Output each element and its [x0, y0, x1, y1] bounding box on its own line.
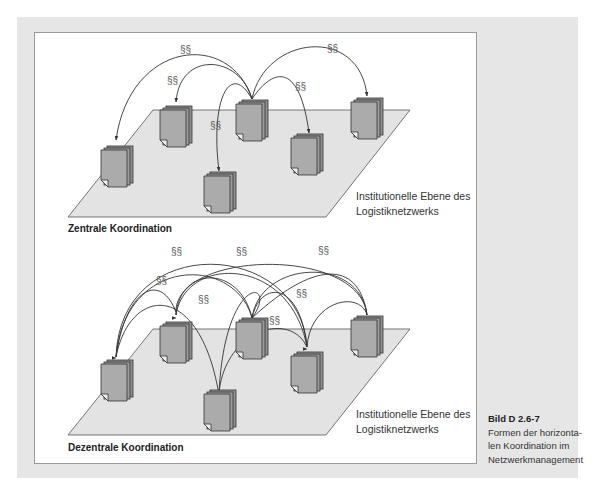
document-icon	[351, 98, 383, 139]
panel-title: Zentrale Koordination	[68, 223, 172, 234]
arc-label: §§	[295, 81, 306, 92]
document-icon	[204, 390, 236, 431]
caption-id: Bild D 2.6-7	[488, 412, 588, 426]
arc-label: §§	[327, 43, 338, 54]
plane-label: Logistiknetzwerks	[356, 205, 439, 217]
document-icon	[101, 146, 133, 187]
figure-caption: Bild D 2.6-7 Formen der horizonta- len K…	[488, 412, 588, 466]
arc-label: §§	[318, 245, 329, 256]
caption-line: Netzwerkmanagement	[488, 453, 588, 467]
arc-label: §§	[180, 44, 191, 55]
arc-label: §§	[269, 315, 280, 326]
document-icon	[291, 352, 323, 393]
plane-label: Logistiknetzwerks	[356, 423, 439, 435]
arc-label: §§	[296, 288, 307, 299]
arc-label: §§	[210, 120, 221, 131]
caption-line: len Koordination im	[488, 439, 588, 453]
document-icon	[160, 322, 192, 363]
arc-label: §§	[236, 246, 247, 257]
document-icon	[236, 318, 268, 359]
document-icon	[291, 134, 323, 175]
arc-label: §§	[198, 294, 209, 305]
document-icon	[160, 106, 192, 147]
document-icon	[101, 360, 133, 401]
plane-label: Institutionelle Ebene des	[356, 408, 470, 420]
panel-zentral: §§ §§ §§ §§ §§ Institutionelle Ebene des…	[68, 43, 470, 234]
arc-label: §§	[156, 275, 167, 286]
panel-title: Dezentrale Koordination	[68, 442, 184, 453]
arc-label: §§	[171, 246, 182, 257]
panel-dezentral: §§ §§ §§ §§ §§ §§ §§ Institutionelle Ebe…	[68, 245, 470, 453]
document-icon	[236, 100, 268, 141]
caption-line: Formen der horizonta-	[488, 426, 588, 440]
arc-label: §§	[167, 75, 178, 86]
document-icon	[204, 172, 236, 213]
document-icon	[351, 316, 383, 357]
plane-label: Institutionelle Ebene des	[356, 190, 470, 202]
